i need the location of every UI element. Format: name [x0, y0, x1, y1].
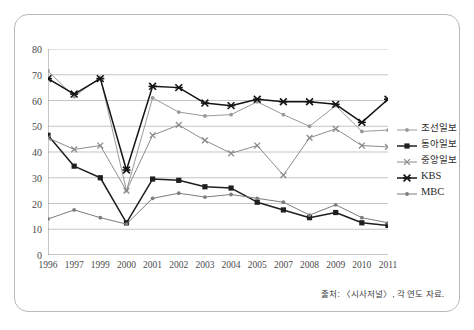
x-axis-tick-label: 2002	[169, 260, 188, 270]
legend-marker-icon	[396, 154, 418, 166]
series-4	[48, 75, 388, 173]
x-axis-tick-label: 1996	[39, 260, 58, 270]
y-axis-tick-label: 30	[32, 172, 42, 183]
x-axis-tick-label: 2011	[379, 260, 398, 270]
x-axis-tick-label: 2008	[300, 260, 319, 270]
x-axis-tick-label: 1997	[65, 260, 84, 270]
legend-marker-icon	[396, 170, 418, 182]
x-axis-tick-label: 2009	[326, 260, 345, 270]
y-axis-tick-label: 50	[32, 121, 42, 132]
plot-area: 01020304050607080 1996199719992000200120…	[48, 49, 388, 255]
y-axis-tick-label: 0	[37, 250, 42, 261]
legend-item-1[interactable]: 조선일보	[396, 120, 462, 135]
chart-legend: 조선일보동아일보중앙일보KBSMBC	[396, 120, 462, 200]
legend-label: MBC	[421, 186, 444, 198]
series-3	[48, 122, 388, 193]
legend-label: 중앙일보	[421, 154, 457, 166]
x-axis-tick-label: 2010	[352, 260, 371, 270]
x-axis-tick-label: 2003	[195, 260, 214, 270]
source-note: 출처: 〈시사저널〉, 각 연도 자료.	[0, 287, 444, 299]
x-axis-tick-label: 1999	[91, 260, 110, 270]
y-axis-tick-label: 10	[32, 224, 42, 235]
x-axis-tick-label: 2004	[222, 260, 241, 270]
series-line	[48, 193, 388, 224]
legend-item-4[interactable]: KBS	[396, 168, 462, 183]
legend-label: 조선일보	[421, 122, 457, 134]
legend-label: 동아일보	[421, 138, 457, 150]
x-axis-tick-label: 2005	[248, 260, 267, 270]
legend-label: KBS	[421, 170, 441, 182]
legend-marker-icon	[396, 122, 418, 134]
legend-marker-icon	[396, 138, 418, 150]
legend-item-3[interactable]: 중앙일보	[396, 152, 462, 167]
y-axis-tick-label: 40	[32, 147, 42, 158]
y-axis-tick-label: 70	[32, 69, 42, 80]
x-axis-tick-label: 2001	[143, 260, 162, 270]
y-axis-tick-label: 80	[32, 44, 42, 55]
series-5	[48, 191, 388, 226]
legend-marker-icon	[396, 186, 418, 198]
chart-canvas	[48, 49, 388, 255]
chart-figure: 01020304050607080 1996199719992000200120…	[0, 0, 474, 330]
series-line	[48, 79, 388, 170]
x-axis-tick-label: 2000	[117, 260, 136, 270]
series-line	[48, 125, 388, 191]
legend-item-5[interactable]: MBC	[396, 184, 462, 199]
x-axis-tick-label: 2007	[274, 260, 293, 270]
y-axis-tick-label: 20	[32, 198, 42, 209]
y-axis-tick-label: 60	[32, 95, 42, 106]
legend-item-2[interactable]: 동아일보	[396, 136, 462, 151]
